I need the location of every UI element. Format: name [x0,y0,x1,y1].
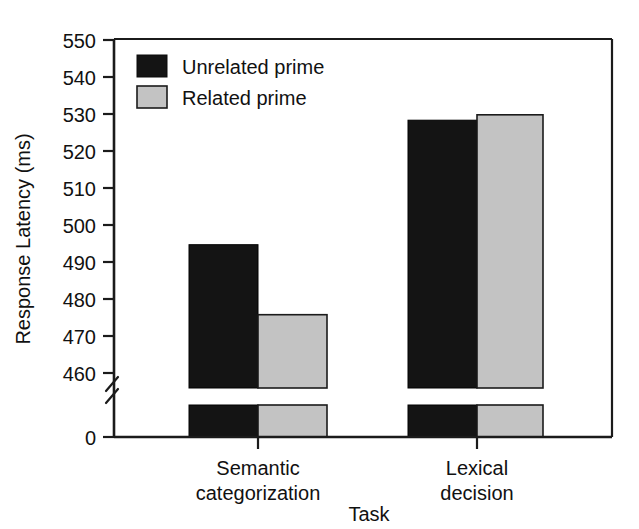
bar-chart: 550 540 530 520 510 500 490 480 470 460 … [0,0,639,529]
bar-lexical-related-upper [477,115,543,388]
y-tick-label-490: 490 [63,252,96,274]
x-axis-title: Task [348,503,390,525]
y-tick-label-500: 500 [63,215,96,237]
bar-semantic-unrelated-upper [189,245,258,388]
bar-lexical-unrelated-stub [408,405,477,437]
y-tick-label-480: 480 [63,289,96,311]
y-tick-label-530: 530 [63,104,96,126]
legend-swatch-related-icon [137,86,167,108]
bar-semantic-related-upper [258,315,327,388]
y-axis-title: Response Latency (ms) [12,133,34,344]
x-category-lexical-line1: Lexical [446,457,508,479]
y-tick-label-550: 550 [63,30,96,52]
y-tick-label-520: 520 [63,141,96,163]
bar-semantic-related-stub [258,405,327,437]
y-tick-label-510: 510 [63,178,96,200]
x-category-semantic-line1: Semantic [216,457,299,479]
y-tick-label-zero: 0 [85,427,96,449]
bar-semantic-unrelated-stub [189,405,258,437]
y-tick-label-470: 470 [63,326,96,348]
y-tick-label-540: 540 [63,67,96,89]
y-tick-label-460: 460 [63,363,96,385]
legend-label-unrelated: Unrelated prime [182,56,324,78]
chart-figure: 550 540 530 520 510 500 490 480 470 460 … [0,0,639,529]
x-category-semantic-line2: categorization [196,482,321,504]
legend-swatch-unrelated-icon [137,55,167,77]
x-category-lexical-line2: decision [440,482,513,504]
bar-lexical-unrelated-upper [408,120,477,388]
legend-label-related: Related prime [182,87,307,109]
bar-lexical-related-stub [477,405,543,437]
